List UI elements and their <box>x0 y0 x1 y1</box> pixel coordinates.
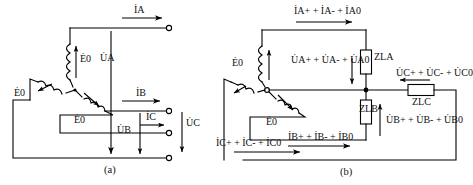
label-current-b: İB <box>136 88 146 98</box>
diagram-a-arrows <box>38 18 182 154</box>
label-emf-c: Ė0 <box>74 115 85 125</box>
label-impedance-lb: ZLB <box>359 104 378 114</box>
label-voltage-b: U̇B <box>117 125 131 135</box>
diagram-a-terminals <box>166 25 171 160</box>
label-current-b-components: İB+ + İB- + İB0 <box>288 132 353 142</box>
label-voltage-a-components: U̇A+ + U̇A- + U̇A0 <box>291 55 370 65</box>
label-impedance-la: ZLA <box>374 52 393 62</box>
label-current-c: İC <box>146 112 156 122</box>
label-impedance-lc: ZLC <box>412 97 431 107</box>
label-voltage-b-components: U̇B+ + U̇B- + U̇B0 <box>386 115 463 125</box>
label-current-c-components: İC+ + İC- + İC0 <box>216 138 281 148</box>
label-current-a-components: İA+ + İA- + İA0 <box>294 6 361 16</box>
label-emf-b-a: Ė0 <box>232 58 243 68</box>
label-voltage-a: U̇A <box>100 53 114 63</box>
caption-b: (b) <box>340 167 352 178</box>
caption-a: (a) <box>104 165 116 176</box>
label-voltage-c-components: U̇C+ + U̇C- + U̇C0 <box>396 68 473 78</box>
label-current-a: İA <box>134 5 145 15</box>
label-emf-b: Ė0 <box>14 88 25 98</box>
label-voltage-c: U̇C <box>186 118 200 128</box>
label-emf-b-c: Ė0 <box>266 117 277 127</box>
label-emf-a: Ė0 <box>80 54 91 64</box>
